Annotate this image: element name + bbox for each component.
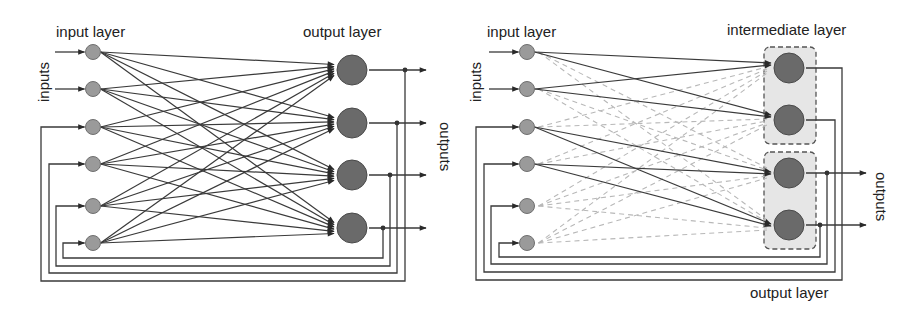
input-neuron <box>86 45 101 60</box>
input-neuron <box>520 45 535 60</box>
outputs-label: outputs <box>873 172 890 221</box>
fully-connected-network: input layer output layer inputs outputs <box>35 23 454 281</box>
connection-edge <box>101 89 335 225</box>
output-neuron <box>337 108 367 138</box>
input-layer-label: input layer <box>487 23 556 40</box>
inactive-connection <box>539 119 768 127</box>
input-neuron <box>86 120 101 135</box>
input-neuron <box>86 199 101 214</box>
connection-edge <box>101 122 335 127</box>
input-neuron <box>520 157 535 172</box>
active-connection <box>535 164 772 226</box>
input-neuron <box>520 82 535 97</box>
output-neuron <box>337 160 367 190</box>
connection-edge <box>101 206 335 231</box>
connection-edge <box>101 52 335 65</box>
input-neuron <box>520 199 535 214</box>
intermediate-neuron <box>774 53 804 83</box>
connection-edge <box>101 178 335 206</box>
intermediate-layer-label: intermediate layer <box>727 21 846 38</box>
output-neuron <box>774 158 804 188</box>
output-layer-label: output layer <box>750 284 828 301</box>
inputs-label: inputs <box>467 62 484 102</box>
input-layer-label: input layer <box>56 23 125 40</box>
connection-edge <box>101 234 335 244</box>
inputs-label: inputs <box>35 62 52 102</box>
inactive-connection <box>539 178 768 243</box>
active-connection <box>535 89 772 117</box>
inactive-connection <box>539 89 768 170</box>
input-neuron <box>86 157 101 172</box>
output-neuron <box>337 213 367 243</box>
active-connection <box>535 65 772 89</box>
input-neuron <box>520 120 535 135</box>
partially-connected-network: input layer intermediate layer output la… <box>467 21 890 301</box>
neural-network-diagrams: input layer output layer inputs outputs … <box>0 0 918 322</box>
inactive-connection <box>539 230 768 243</box>
input-neuron <box>86 82 101 97</box>
inactive-connection <box>539 176 768 206</box>
intermediate-neuron <box>774 105 804 135</box>
output-neuron <box>337 55 367 85</box>
inactive-connection <box>539 73 768 243</box>
active-connections <box>535 52 772 226</box>
outputs-label: outputs <box>437 122 454 171</box>
output-layer-label: output layer <box>303 23 381 40</box>
inactive-connection <box>539 71 768 206</box>
inactive-connections <box>539 52 768 243</box>
inactive-connection <box>539 67 768 127</box>
inactive-connection <box>539 89 768 222</box>
input-neuron <box>86 236 101 251</box>
output-neuron <box>774 210 804 240</box>
input-neuron <box>520 236 535 251</box>
left-connections <box>101 52 335 243</box>
